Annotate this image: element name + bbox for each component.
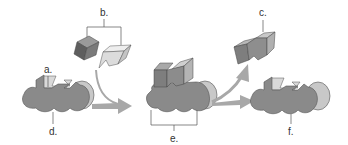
label-c: c. — [259, 7, 267, 18]
enzyme-substrate-complex-e — [146, 58, 217, 112]
label-e-bracket — [151, 110, 197, 125]
label-d: d. — [49, 126, 57, 137]
arrow-enzyme-release — [212, 95, 254, 109]
label-b: b. — [100, 7, 108, 18]
substrate-dark-cube — [74, 36, 99, 60]
arrow-substrate-binding — [92, 70, 132, 114]
enzyme-reaction-diagram: a. d. b. e. — [0, 0, 348, 145]
substrates-b — [74, 19, 131, 68]
label-f: f. — [288, 126, 294, 137]
product-c — [234, 20, 275, 64]
arrow-product-release — [212, 64, 249, 102]
enzyme-f — [251, 77, 331, 114]
enzyme-d — [23, 75, 95, 112]
substrate-light-block — [99, 45, 131, 68]
label-a: a. — [44, 64, 52, 75]
label-e: e. — [170, 133, 178, 144]
